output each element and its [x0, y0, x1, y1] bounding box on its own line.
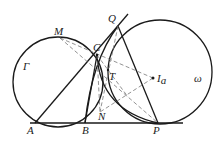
geometry-diagram: M C Q T Ia Γ ω A B N P: [0, 0, 221, 142]
label-t: T: [109, 70, 116, 82]
dashed-ia-n: [100, 78, 153, 112]
label-b: B: [82, 124, 89, 136]
label-omega: ω: [194, 72, 202, 84]
label-p: P: [152, 124, 160, 136]
circle-gamma: [13, 37, 103, 127]
label-ia-sub: a: [161, 74, 167, 86]
label-n: N: [97, 110, 106, 122]
label-m: M: [53, 25, 64, 37]
label-ia: Ia: [156, 72, 167, 86]
label-a: A: [26, 124, 34, 136]
point-ia: [152, 77, 155, 80]
label-q: Q: [108, 12, 116, 24]
label-gamma: Γ: [22, 60, 30, 72]
point-c: [96, 54, 99, 57]
label-c: C: [93, 41, 101, 53]
